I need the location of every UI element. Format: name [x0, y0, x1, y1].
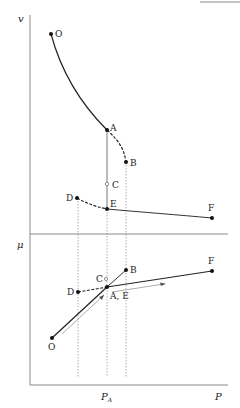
label-e-upper: E	[110, 199, 117, 209]
label-b-upper: B	[130, 158, 137, 168]
arrowhead-a-to-f-icon	[160, 283, 166, 287]
label-c-lower: C	[96, 274, 103, 284]
point-f-lower	[210, 269, 214, 273]
point-d-upper	[75, 196, 79, 200]
lower-ylabel: μ	[17, 239, 24, 250]
line-o-ae	[52, 287, 107, 338]
xtick-pa: PA	[100, 391, 113, 403]
lower-panel: O D C A, E B F	[48, 256, 214, 352]
xlabel: P	[214, 391, 222, 402]
label-d-lower: D	[67, 287, 74, 297]
label-a-upper: A	[109, 123, 117, 133]
point-e-upper	[105, 207, 109, 211]
point-a-upper	[105, 128, 109, 132]
point-b-lower	[124, 268, 128, 272]
point-c-upper	[105, 182, 108, 185]
point-f-upper	[210, 216, 214, 220]
phase-diagram: v μ PA P O A B C D E F	[0, 0, 240, 408]
label-b-lower: B	[130, 265, 137, 275]
curve-d-e	[77, 198, 107, 209]
label-ae-lower: A, E	[109, 291, 129, 301]
point-o-lower	[50, 336, 54, 340]
point-d-lower	[76, 290, 80, 294]
arrow-o-to-a	[62, 295, 104, 334]
label-o-upper: O	[55, 29, 62, 39]
label-o-lower: O	[48, 342, 55, 352]
curve-e-f	[107, 209, 212, 218]
point-ae-lower	[105, 285, 109, 289]
point-c-lower	[104, 277, 107, 280]
upper-ylabel: v	[18, 13, 24, 24]
upper-panel: O A B C D E F	[49, 29, 214, 220]
guide-lines	[78, 162, 126, 377]
label-f-lower: F	[208, 256, 214, 266]
point-o-upper	[49, 32, 53, 36]
label-c-upper: C	[112, 180, 119, 190]
label-f-upper: F	[208, 203, 214, 213]
curve-o-a	[51, 34, 107, 130]
curve-a-b	[107, 130, 126, 162]
label-d-upper: D	[66, 193, 73, 203]
point-b-upper	[124, 160, 128, 164]
